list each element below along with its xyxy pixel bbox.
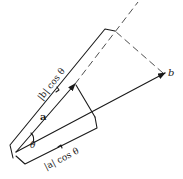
vector-a-label: a [40, 111, 47, 122]
vector-projection-diagram: a b θ |b| cos θ |a| cos θ [0, 0, 183, 179]
theta-label: θ [30, 140, 36, 150]
vector-b-label: b [168, 67, 174, 78]
a-perpendicular-line [76, 85, 95, 117]
a-cos-theta-label: |a| cos θ [42, 146, 81, 173]
b-perpendicular-dashed-line [115, 31, 163, 73]
vector-b-arrow [16, 73, 165, 152]
b-cos-theta-bracket [10, 29, 115, 158]
